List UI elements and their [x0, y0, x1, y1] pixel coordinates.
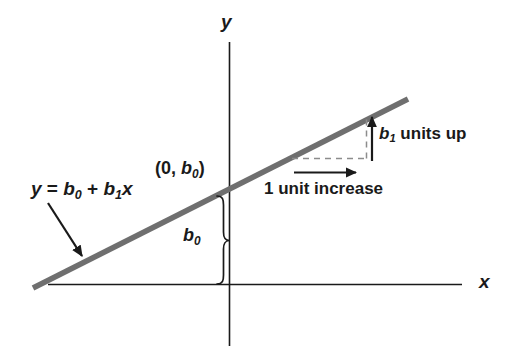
regression-equation-label: y = b0 + b1x	[31, 179, 133, 201]
equation-equals: =	[42, 178, 64, 199]
point-b-base: b	[181, 158, 192, 178]
intercept-b-subscript: 0	[194, 234, 201, 248]
rise-units-text: units up	[396, 124, 467, 143]
equation-plus: +	[82, 178, 104, 199]
equation-b1-base: b	[103, 178, 115, 199]
point-close-paren: )	[199, 158, 205, 178]
equation-callout-arrow	[48, 203, 82, 256]
y-axis-label: y	[221, 12, 232, 31]
equation-b0-subscript: 0	[75, 188, 82, 202]
equation-b0-base: b	[63, 178, 75, 199]
point-b-subscript: 0	[192, 167, 199, 181]
y-intercept-point-label: (0, b0)	[155, 159, 205, 180]
point-open-paren: (0,	[155, 158, 181, 178]
regression-line-figure: y x y = b0 + b1x (0, b0) b0 1 unit incre…	[0, 0, 515, 357]
rise-b-base: b	[379, 124, 389, 143]
equation-y-term: y	[31, 178, 42, 199]
x-axis-label: x	[479, 272, 490, 291]
intercept-b-base: b	[183, 225, 194, 245]
rise-label: b1 units up	[379, 125, 466, 145]
equation-x-term: x	[122, 178, 133, 199]
run-label: 1 unit increase	[264, 180, 383, 197]
intercept-brace	[217, 196, 229, 284]
intercept-value-label: b0	[183, 226, 201, 247]
